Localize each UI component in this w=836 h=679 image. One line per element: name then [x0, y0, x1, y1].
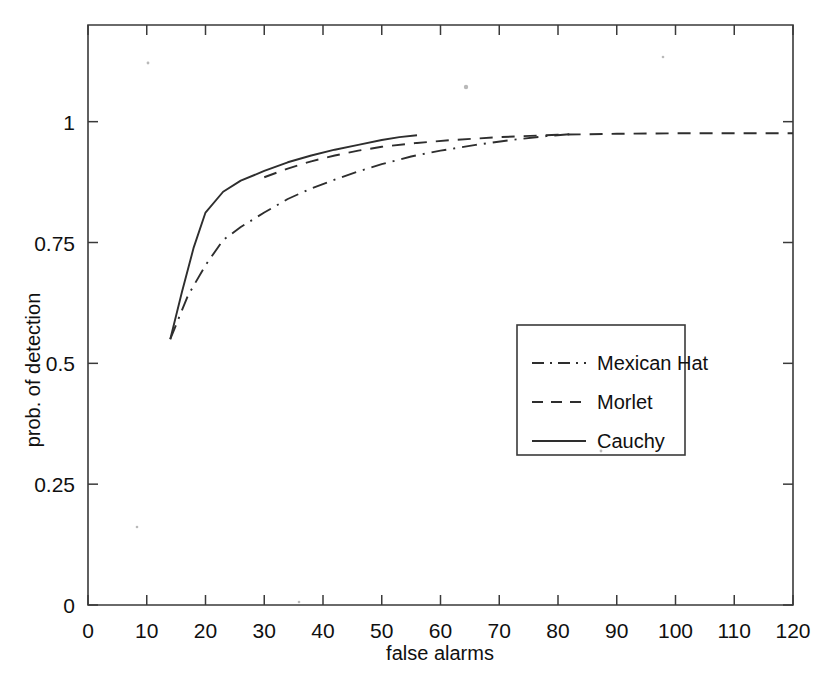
scan-speck [136, 526, 139, 529]
x-axis-label: false alarms [386, 642, 494, 664]
y-axis-ticks [88, 122, 98, 605]
x-tick-label: 70 [488, 619, 511, 642]
series-morlet [264, 133, 793, 177]
y-tick-label: 1 [63, 111, 75, 134]
x-tick-label: 100 [658, 619, 693, 642]
series-mexican-hat [170, 134, 570, 339]
y-axis-label: prob. of detection [22, 293, 44, 448]
x-tick-label: 80 [546, 619, 569, 642]
y-tick-label: 0.5 [46, 352, 75, 375]
y-tick-label: 0.75 [34, 232, 75, 255]
x-tick-label: 10 [135, 619, 158, 642]
x-tick-label: 120 [775, 619, 810, 642]
x-tick-label: 50 [370, 619, 393, 642]
y-tick-label: 0.25 [34, 473, 75, 496]
scan-speck [600, 450, 603, 453]
x-tick-label: 110 [718, 619, 751, 642]
scan-speck [147, 62, 150, 65]
legend-label-mexican-hat: Mexican Hat [597, 352, 709, 374]
legend-label-morlet: Morlet [597, 391, 653, 413]
y-tick-label: 0 [63, 594, 75, 617]
x-axis-tick-labels: 0102030405060708090100110120 [82, 619, 810, 642]
scan-speck [298, 601, 301, 604]
x-tick-label: 20 [194, 619, 217, 642]
x-tick-label: 0 [82, 619, 94, 642]
legend-label-cauchy: Cauchy [597, 430, 665, 452]
x-tick-label: 40 [311, 619, 334, 642]
plot-frame [88, 25, 793, 605]
x-axis-ticks [88, 595, 793, 605]
x-tick-label: 90 [605, 619, 628, 642]
data-curves [170, 133, 793, 339]
right-axis-ticks [783, 122, 793, 605]
scan-speck [662, 56, 665, 59]
scan-speck [464, 85, 468, 89]
legend: Mexican HatMorletCauchy [517, 325, 709, 455]
x-tick-label: 30 [253, 619, 276, 642]
figure-container: 0102030405060708090100110120 00.250.50.7… [0, 0, 836, 679]
roc-chart: 0102030405060708090100110120 00.250.50.7… [0, 0, 836, 679]
top-axis-ticks [88, 25, 793, 35]
x-tick-label: 60 [429, 619, 452, 642]
